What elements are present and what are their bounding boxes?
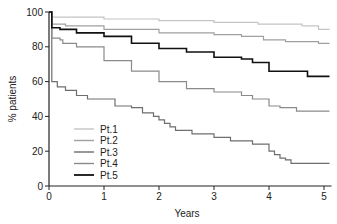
- x-axis-title: Years: [174, 208, 199, 219]
- x-tick-label: 2: [156, 191, 162, 202]
- y-tick-label: 100: [26, 7, 43, 18]
- y-axis-title: % patients: [7, 76, 18, 123]
- y-tick-label: 40: [32, 111, 44, 122]
- x-tick-label: 5: [321, 191, 327, 202]
- x-axis-ticks: 012345: [46, 186, 327, 202]
- y-tick-label: 0: [37, 181, 43, 192]
- y-axis-ticks: 020406080100: [26, 7, 49, 192]
- x-tick-label: 1: [101, 191, 107, 202]
- x-tick-label: 0: [46, 191, 52, 202]
- x-tick-label: 3: [211, 191, 217, 202]
- legend-label: Pt.5: [100, 170, 118, 181]
- legend: Pt.1Pt.2Pt.3Pt.4Pt.5: [74, 124, 118, 181]
- legend-label: Pt.4: [100, 158, 118, 169]
- series-pt1: [49, 12, 330, 29]
- legend-label: Pt.2: [100, 135, 118, 146]
- series-pt4: [49, 12, 330, 111]
- series-pt5: [49, 12, 330, 76]
- y-tick-label: 80: [32, 41, 44, 52]
- x-tick-label: 4: [266, 191, 272, 202]
- y-tick-label: 20: [32, 146, 44, 157]
- legend-label: Pt.1: [100, 124, 118, 135]
- y-tick-label: 60: [32, 76, 44, 87]
- legend-label: Pt.3: [100, 147, 118, 158]
- survival-chart: 020406080100 012345 % patients Years Pt.…: [0, 0, 337, 224]
